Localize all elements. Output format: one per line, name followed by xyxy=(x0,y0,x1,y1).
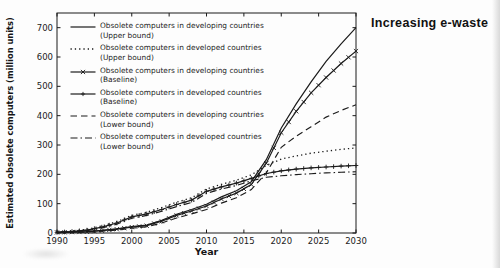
legend-label-series: Obsolete computers in developed countrie… xyxy=(100,132,262,142)
legend-label-bound: (Baseline) xyxy=(100,97,262,107)
legend-label: Obsolete computers in developed countrie… xyxy=(100,88,262,107)
y-tick-label: 700 xyxy=(37,23,53,33)
legend-label-bound: (Upper bound) xyxy=(100,31,264,41)
x-tick-label: 2025 xyxy=(308,236,330,246)
legend-sample-dashdot-line xyxy=(70,133,96,143)
x-tick-label: 2010 xyxy=(196,236,218,246)
x-tick-label: 2005 xyxy=(158,236,180,246)
y-axis-label: Estimated obsolete computers (million un… xyxy=(5,13,17,233)
y-tick-label: 600 xyxy=(37,52,53,62)
y-tick-label: 100 xyxy=(37,199,53,209)
x-tick-label: 2030 xyxy=(345,236,367,246)
chart-legend: Obsolete computers in developing countri… xyxy=(70,21,264,155)
x-axis-label: Year xyxy=(57,246,356,257)
y-tick-label: 200 xyxy=(37,169,53,179)
legend-sample-solid-line xyxy=(70,89,96,99)
legend-label-bound: (Lower bound) xyxy=(100,142,262,152)
legend-sample-dotted-line xyxy=(70,44,96,54)
legend-entry-developing-lower: Obsolete computers in developing countri… xyxy=(70,110,264,129)
legend-entry-developing-baseline: Obsolete computers in developing countri… xyxy=(70,66,264,85)
y-tick-label: 400 xyxy=(37,111,53,121)
legend-entry-developed-lower: Obsolete computers in developed countrie… xyxy=(70,132,264,151)
legend-label-series: Obsolete computers in developing countri… xyxy=(100,110,264,120)
legend-label: Obsolete computers in developing countri… xyxy=(100,110,264,129)
y-tick-label: 0 xyxy=(48,228,53,238)
legend-label: Obsolete computers in developing countri… xyxy=(100,66,264,85)
y-tick-label: 300 xyxy=(37,140,53,150)
legend-label: Obsolete computers in developing countri… xyxy=(100,21,264,40)
x-tick-label: 2015 xyxy=(233,236,255,246)
legend-label-series: Obsolete computers in developed countrie… xyxy=(100,88,262,98)
x-tick-label: 2020 xyxy=(270,236,292,246)
legend-label-bound: (Lower bound) xyxy=(100,120,264,130)
plus-marker-icon xyxy=(81,92,85,96)
legend-sample-solid-line xyxy=(70,22,96,32)
legend-label-series: Obsolete computers in developing countri… xyxy=(100,21,264,31)
legend-sample-solid-line xyxy=(70,67,96,77)
legend-entry-developing-upper: Obsolete computers in developing countri… xyxy=(70,21,264,40)
legend-sample-dashed-line xyxy=(70,111,96,121)
x-tick-label: 1995 xyxy=(84,236,106,246)
legend-entry-developed-upper: Obsolete computers in developed countrie… xyxy=(70,43,264,62)
x-tick-label: 2000 xyxy=(121,236,143,246)
legend-label: Obsolete computers in developed countrie… xyxy=(100,132,262,151)
legend-label: Obsolete computers in developed countrie… xyxy=(100,43,262,62)
series-developed-lower-line xyxy=(57,172,356,233)
y-tick-label: 500 xyxy=(37,81,53,91)
series-developed-baseline-line xyxy=(57,166,356,233)
chart-title: Increasing e-waste xyxy=(371,16,488,30)
legend-label-bound: (Baseline) xyxy=(100,75,264,85)
legend-entry-developed-baseline: Obsolete computers in developed countrie… xyxy=(70,88,264,107)
legend-label-bound: (Upper bound) xyxy=(100,53,262,63)
legend-label-series: Obsolete computers in developing countri… xyxy=(100,66,264,76)
legend-label-series: Obsolete computers in developed countrie… xyxy=(100,43,262,53)
